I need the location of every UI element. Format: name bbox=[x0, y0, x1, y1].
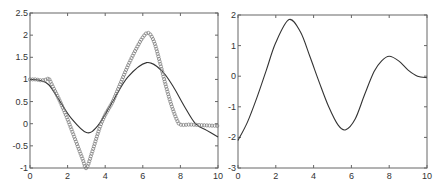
y-tick-label: 1 bbox=[23, 74, 28, 84]
marker-series bbox=[28, 31, 218, 169]
y-tick-label: 2 bbox=[231, 10, 236, 20]
y-tick-label: 0.5 bbox=[15, 97, 28, 107]
y-tick-label: -0.5 bbox=[12, 141, 28, 151]
y-tick-label: -2 bbox=[228, 132, 236, 142]
x-tick-label: 2 bbox=[65, 171, 70, 181]
axes-frame bbox=[238, 15, 427, 168]
y-tick-label: 0 bbox=[23, 119, 28, 129]
figure: 0246810-1-0.500.511.522.5 0246810-3-2-10… bbox=[0, 0, 443, 188]
x-tick-label: 10 bbox=[213, 171, 223, 181]
x-tick-label: 8 bbox=[387, 171, 392, 181]
x-tick-label: 6 bbox=[140, 171, 145, 181]
line-series bbox=[238, 19, 427, 140]
y-tick-label: -1 bbox=[228, 102, 236, 112]
y-tick-label: -3 bbox=[228, 163, 236, 173]
x-tick-label: 2 bbox=[273, 171, 278, 181]
y-tick-label: 1 bbox=[231, 41, 236, 51]
y-tick-label: -1 bbox=[20, 163, 28, 173]
x-tick-label: 4 bbox=[103, 171, 108, 181]
y-tick-label: 1.5 bbox=[15, 52, 28, 62]
left-plot: 0246810-1-0.500.511.522.5 bbox=[12, 8, 223, 181]
axes-frame bbox=[30, 13, 218, 168]
x-tick-label: 4 bbox=[311, 171, 316, 181]
right-plot: 0246810-3-2-1012 bbox=[228, 10, 432, 181]
y-tick-label: 0 bbox=[231, 71, 236, 81]
x-tick-label: 0 bbox=[235, 171, 240, 181]
x-tick-label: 0 bbox=[27, 171, 32, 181]
x-tick-label: 6 bbox=[349, 171, 354, 181]
y-tick-label: 2.5 bbox=[15, 8, 28, 18]
x-tick-label: 8 bbox=[178, 171, 183, 181]
y-tick-label: 2 bbox=[23, 30, 28, 40]
x-tick-label: 10 bbox=[422, 171, 432, 181]
